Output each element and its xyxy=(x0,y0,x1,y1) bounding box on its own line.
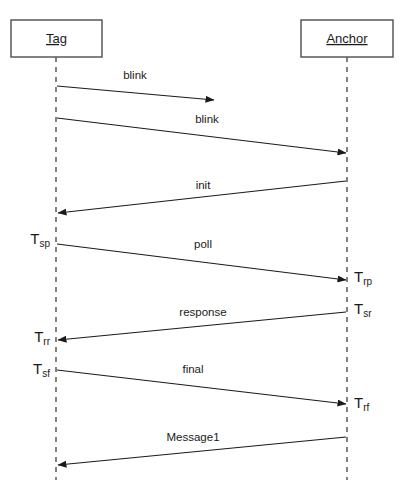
participant-tag[interactable]: Tag xyxy=(11,20,102,57)
message-init[interactable]: init xyxy=(58,179,346,213)
message-final[interactable]: final xyxy=(57,363,346,404)
participant-label-tag: Tag xyxy=(46,31,67,46)
sequence-diagram-svg: blinkblinkinitpollresponsefinalMessage1 … xyxy=(0,0,400,495)
message-blink-1[interactable]: blink xyxy=(57,69,214,100)
message-label-blink-2: blink xyxy=(195,113,219,125)
message-response[interactable]: response xyxy=(58,306,346,340)
timestamp-trf: Trf xyxy=(354,394,370,413)
message-label-poll: poll xyxy=(194,238,212,250)
timestamp-trp: Trp xyxy=(354,268,373,287)
message-label-final: final xyxy=(182,363,203,375)
timestamp-tsp: Tsp xyxy=(30,230,50,249)
message-label-response: response xyxy=(179,306,226,318)
timestamp-tsr: Tsr xyxy=(354,300,372,319)
message-message1[interactable]: Message1 xyxy=(58,431,346,465)
message-arrow-final xyxy=(57,370,346,404)
timestamp-tsf: Tsf xyxy=(33,360,50,379)
timestamps-layer: TspTrpTsrTrrTsfTrf xyxy=(30,230,372,413)
participants-layer: TagAnchor xyxy=(11,20,393,57)
messages-layer: blinkblinkinitpollresponsefinalMessage1 xyxy=(57,69,346,465)
timestamp-trr: Trr xyxy=(34,328,51,347)
message-label-message1: Message1 xyxy=(166,431,219,443)
message-label-init: init xyxy=(196,179,212,191)
message-arrow-blink-1 xyxy=(57,86,214,100)
message-poll[interactable]: poll xyxy=(57,238,346,280)
participant-label-anchor: Anchor xyxy=(326,31,368,46)
sequence-diagram-canvas: blinkblinkinitpollresponsefinalMessage1 … xyxy=(0,0,400,495)
message-label-blink-1: blink xyxy=(123,69,147,81)
message-blink-2[interactable]: blink xyxy=(57,113,346,153)
participant-anchor[interactable]: Anchor xyxy=(301,20,393,57)
